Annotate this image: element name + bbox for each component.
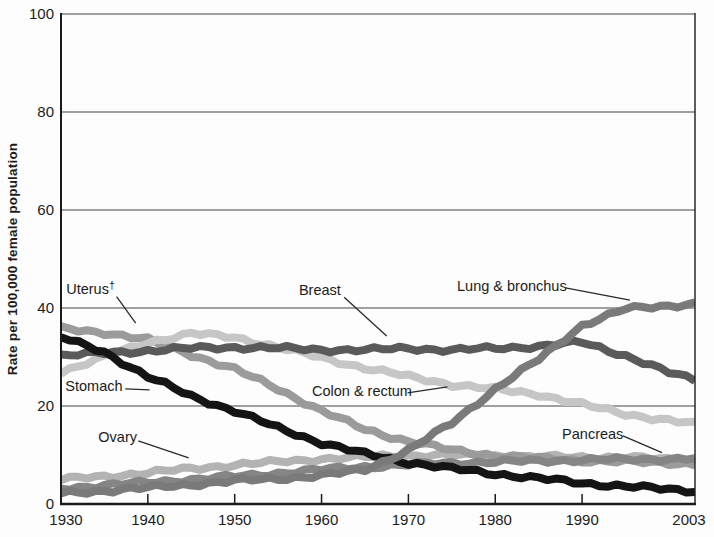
annotation-label-ovary: Ovary: [98, 429, 137, 445]
cancer-death-rates-figure: 020406080100 193019401950196019701980199…: [0, 0, 714, 537]
x-tick-label-1980: 1980: [479, 511, 512, 528]
chart-canvas: 020406080100 193019401950196019701980199…: [0, 0, 714, 537]
x-tick-label-1970: 1970: [392, 511, 425, 528]
annotation-pointer-uterus: [117, 297, 136, 323]
x-tick-label-1940: 1940: [131, 511, 164, 528]
x-tick-label-2003: 2003: [672, 511, 705, 528]
annotation-pointer-lung-bronchus: [566, 288, 630, 300]
y-tick-labels: 020406080100: [29, 5, 54, 512]
annotation-label-pancreas: Pancreas: [562, 426, 623, 442]
annotation-label-colon-rectum: Colon & rectum: [312, 383, 412, 399]
x-tick-label-1990: 1990: [565, 511, 598, 528]
y-axis-title: Rate per 100,000 female population: [5, 143, 20, 376]
y-tick-label-80: 80: [37, 103, 54, 120]
x-tick-labels: 19301940195019601970198019902003: [49, 511, 705, 528]
annotation-pointer-pancreas: [623, 436, 662, 453]
y-tick-label-0: 0: [46, 495, 54, 512]
annotation-label-lung-bronchus: Lung & bronchus: [457, 278, 567, 294]
x-tick-label-1930: 1930: [49, 511, 82, 528]
annotation-label-breast: Breast: [299, 282, 341, 298]
x-tick-label-1960: 1960: [305, 511, 338, 528]
y-tick-label-60: 60: [37, 201, 54, 218]
annotation-superscript-uterus: †: [109, 279, 115, 291]
y-tick-label-20: 20: [37, 397, 54, 414]
x-tick-label-1950: 1950: [218, 511, 251, 528]
annotation-label-stomach: Stomach: [65, 378, 122, 394]
annotation-label-uterus: Uterus†: [66, 279, 115, 297]
series-line-breast: [61, 341, 695, 381]
annotation-pointer-breast: [344, 297, 387, 336]
y-tick-label-100: 100: [29, 5, 54, 22]
annotation-pointer-stomach: [125, 389, 149, 390]
y-tick-label-40: 40: [37, 299, 54, 316]
annotation-pointer-ovary: [138, 441, 188, 458]
annotation-pointer-colon-rectum: [408, 387, 448, 393]
